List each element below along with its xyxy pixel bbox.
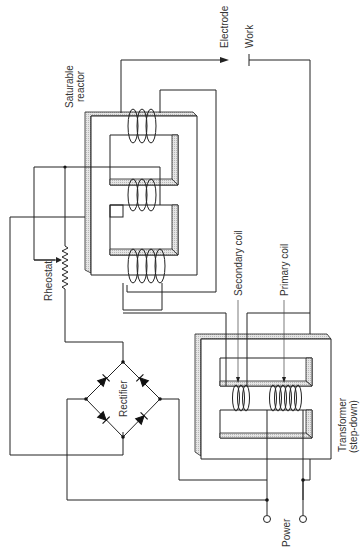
rheostat-label: Rheostat (43, 261, 54, 301)
reactor-notch (110, 205, 123, 217)
electrode-arrow-icon (220, 57, 229, 63)
rectifier-label: Rectifier (118, 380, 129, 417)
electrode-wire (121, 60, 222, 113)
transformer-label-line1: Transformer (337, 397, 348, 452)
saturable-reactor-label-line1: Saturable (64, 65, 75, 108)
rheostat-wiper-arrow-icon (56, 257, 62, 263)
power-label: Power (281, 518, 292, 547)
welding-power-supply-diagram: Electrode Work Saturable reactor Rheosta… (0, 0, 364, 549)
work-label: Work (244, 24, 255, 48)
rheostat-resistor (62, 246, 68, 289)
primary-coil-label: Primary coil (279, 244, 290, 296)
secondary-coil-label: Secondary coil (233, 230, 244, 296)
diode-icon (97, 374, 110, 387)
power-terminal (300, 516, 307, 523)
transformer-label-line2: (step-down) (348, 400, 359, 453)
power-terminal (264, 516, 271, 523)
transformer-core (201, 339, 331, 459)
electrode-label: Electrode (219, 5, 230, 48)
diode-icon (136, 374, 149, 387)
saturable-reactor (85, 109, 197, 283)
saturable-reactor-label-line2: reactor (75, 70, 86, 102)
transformer (123, 313, 331, 500)
